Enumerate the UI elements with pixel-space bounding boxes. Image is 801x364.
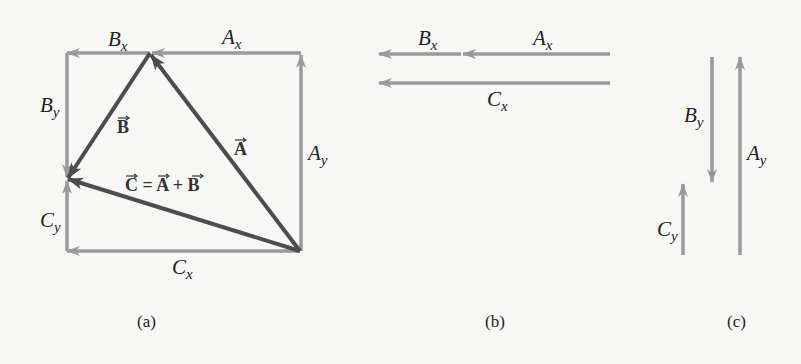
label-bx: Bx (418, 26, 438, 53)
svg-text:C = A + B: C = A + B (125, 175, 200, 195)
panel-a: Bx Ax By Ay Cy Cx B A C = A + B (a) (40, 25, 328, 331)
label-ay: Ay (306, 141, 328, 168)
label-by: By (684, 103, 704, 130)
label-cx: Cx (172, 255, 193, 282)
label-cx: Cx (487, 87, 508, 114)
label-cy: Cy (40, 208, 61, 235)
label-c-equals-a-plus-b: C = A + B (125, 174, 203, 195)
vector-addition-diagram: Bx Ax By Ay Cy Cx B A C = A + B (a) (0, 0, 801, 364)
label-by: By (40, 93, 60, 120)
label-vector-a: A (234, 138, 247, 159)
caption-b: (b) (485, 312, 505, 331)
panel-c: By Ay Cy (c) (657, 57, 767, 331)
caption-a: (a) (137, 312, 156, 331)
vector-b (68, 53, 150, 178)
label-vector-b: B (117, 116, 129, 137)
svg-text:A: A (234, 139, 247, 159)
label-ay: Ay (745, 141, 767, 168)
caption-c: (c) (727, 312, 746, 331)
label-ax: Ax (220, 25, 242, 52)
label-cy: Cy (657, 217, 678, 244)
label-ax: Ax (531, 26, 553, 53)
label-bx: Bx (108, 27, 128, 54)
svg-text:B: B (117, 117, 129, 137)
vector-a (151, 55, 300, 251)
panel-b: Bx Ax Cx (b) (379, 26, 610, 331)
